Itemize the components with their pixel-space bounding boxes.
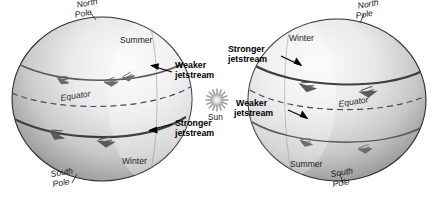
sun-label: Sun bbox=[208, 113, 223, 122]
right-stronger-jetstream-label-line2: jetstream bbox=[228, 55, 267, 65]
sun-icon bbox=[206, 89, 229, 112]
left-lower-season-label: Winter bbox=[122, 157, 147, 166]
sun-group bbox=[206, 89, 229, 112]
right-weaker-jetstream-label-line2: jetstream bbox=[234, 109, 273, 119]
jetstream-seasons-diagram: North Pole Summer Equator Winter South P… bbox=[0, 0, 435, 199]
left-stronger-jetstream-label-line2: jetstream bbox=[175, 129, 214, 139]
left-upper-season-label: Summer bbox=[120, 36, 152, 45]
right-lower-season-label: Summer bbox=[290, 160, 322, 169]
left-globe-group bbox=[12, 12, 192, 183]
left-weaker-jetstream-label-line2: jetstream bbox=[175, 71, 214, 81]
right-upper-season-label: Winter bbox=[289, 34, 314, 43]
